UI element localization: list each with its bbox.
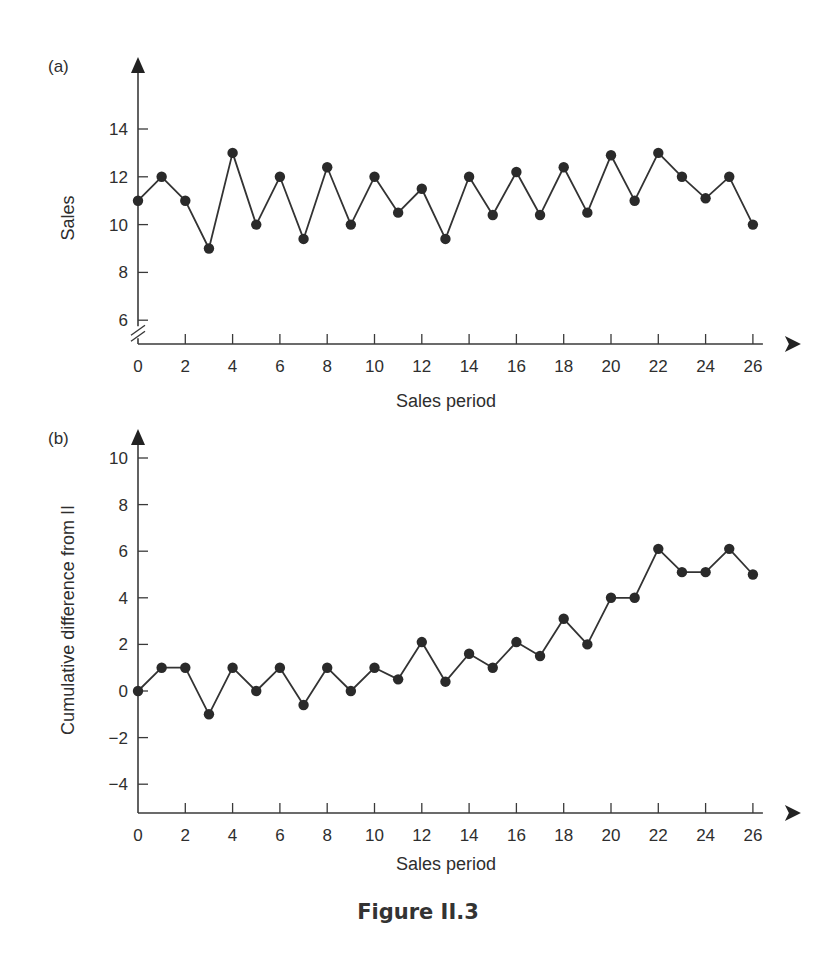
data-point-marker: [156, 663, 166, 673]
x-tick-label: 18: [554, 826, 573, 845]
data-point-marker: [700, 193, 710, 203]
x-tick-label: 26: [743, 357, 762, 376]
panel-a-x-axis-label: Sales period: [396, 391, 496, 411]
x-tick-label: 12: [412, 357, 431, 376]
data-point-marker: [559, 614, 569, 624]
data-point-marker: [393, 207, 403, 217]
data-point-marker: [748, 569, 758, 579]
data-point-marker: [251, 219, 261, 229]
data-point-marker: [677, 172, 687, 182]
data-point-marker: [440, 676, 450, 686]
panel-a-label: (a): [48, 57, 69, 76]
x-tick-label: 12: [412, 826, 431, 845]
x-tick-label: 16: [507, 357, 526, 376]
panel-a-y-axis-label: Sales: [58, 195, 78, 240]
data-point-marker: [275, 172, 285, 182]
data-point-marker: [748, 219, 758, 229]
data-point-marker: [511, 167, 521, 177]
x-tick-label: 2: [181, 826, 190, 845]
panel-a-series: [133, 148, 758, 254]
data-point-marker: [251, 686, 261, 696]
x-tick-label: 14: [460, 357, 479, 376]
x-tick-label: 8: [322, 357, 331, 376]
x-tick-label: 0: [133, 357, 142, 376]
y-tick-label: 8: [119, 496, 128, 515]
x-tick-label: 16: [507, 826, 526, 845]
x-tick-label: 20: [602, 826, 621, 845]
y-tick-label: 6: [119, 542, 128, 561]
y-axis-arrow-icon: [131, 429, 145, 445]
data-point-marker: [488, 663, 498, 673]
data-point-marker: [464, 172, 474, 182]
data-point-marker: [559, 162, 569, 172]
panel-b-x-axis-label: Sales period: [396, 854, 496, 874]
data-point-marker: [298, 234, 308, 244]
y-axis-arrow-icon: [131, 57, 145, 73]
x-tick-label: 2: [181, 357, 190, 376]
y-tick-label: 4: [119, 589, 128, 608]
y-tick-label: 8: [119, 263, 128, 282]
data-point-marker: [488, 210, 498, 220]
y-tick-label: −4: [109, 775, 128, 794]
data-point-marker: [629, 593, 639, 603]
data-point-marker: [393, 674, 403, 684]
data-point-marker: [582, 639, 592, 649]
data-point-marker: [417, 184, 427, 194]
data-point-marker: [535, 210, 545, 220]
x-axis-arrow-icon: [785, 805, 801, 821]
data-point-marker: [653, 544, 663, 554]
panel-b-series: [133, 544, 758, 720]
x-tick-label: 24: [696, 826, 715, 845]
data-point-marker: [227, 148, 237, 158]
x-tick-label: 14: [460, 826, 479, 845]
panel-b-label: (b): [48, 429, 69, 448]
x-tick-label: 22: [649, 826, 668, 845]
data-point-marker: [156, 172, 166, 182]
data-point-marker: [606, 150, 616, 160]
x-axis-arrow-icon: [785, 336, 801, 352]
data-point-marker: [346, 219, 356, 229]
data-point-marker: [133, 686, 143, 696]
y-tick-label: 12: [109, 168, 128, 187]
data-point-marker: [629, 196, 639, 206]
data-point-marker: [464, 649, 474, 659]
data-point-marker: [204, 709, 214, 719]
y-tick-label: 6: [119, 311, 128, 330]
x-tick-label: 4: [228, 357, 237, 376]
x-tick-label: 6: [275, 826, 284, 845]
x-tick-label: 26: [743, 826, 762, 845]
figure-caption: Figure II.3: [0, 900, 836, 924]
chart-panel-b: (b) 02468101214161820222426−4−20246810 S…: [48, 429, 801, 874]
data-point-marker: [677, 567, 687, 577]
data-point-marker: [180, 663, 190, 673]
y-tick-label: 10: [109, 216, 128, 235]
data-point-marker: [724, 544, 734, 554]
data-point-marker: [369, 172, 379, 182]
y-tick-label: 14: [109, 120, 128, 139]
x-tick-label: 10: [365, 357, 384, 376]
data-point-marker: [133, 196, 143, 206]
chart-panel-a: (a) 0246810121416182022242668101214 Sale…: [48, 57, 801, 411]
axis-break-mark: [131, 325, 145, 335]
x-tick-label: 20: [602, 357, 621, 376]
data-point-marker: [275, 663, 285, 673]
data-point-marker: [227, 663, 237, 673]
data-point-marker: [511, 637, 521, 647]
panel-b-y-axis-label: Cumulative difference from II: [58, 505, 78, 735]
data-point-marker: [346, 686, 356, 696]
data-point-marker: [204, 243, 214, 253]
y-tick-label: 0: [119, 682, 128, 701]
data-point-marker: [440, 234, 450, 244]
data-point-marker: [724, 172, 734, 182]
data-point-marker: [653, 148, 663, 158]
data-point-marker: [298, 700, 308, 710]
x-tick-label: 8: [322, 826, 331, 845]
figure-canvas: (a) 0246810121416182022242668101214 Sale…: [0, 0, 836, 956]
x-tick-label: 6: [275, 357, 284, 376]
y-tick-label: 10: [109, 449, 128, 468]
x-tick-label: 22: [649, 357, 668, 376]
y-tick-label: 2: [119, 635, 128, 654]
data-point-marker: [606, 593, 616, 603]
data-point-marker: [322, 162, 332, 172]
data-point-marker: [700, 567, 710, 577]
